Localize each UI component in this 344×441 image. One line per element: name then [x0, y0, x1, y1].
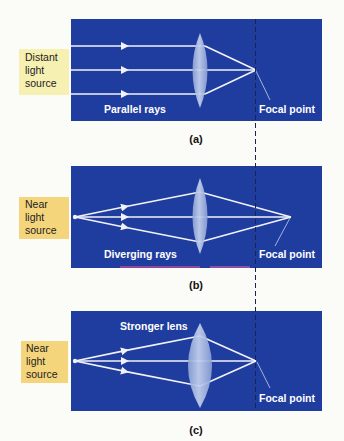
ray-label-b: Diverging rays: [104, 248, 177, 260]
focal-label-a: Focal point: [259, 103, 316, 115]
caption-c: (c): [189, 424, 203, 436]
focal-label-b: Focal point: [259, 248, 316, 260]
panel-a: Distant light source Parallel rays Focal…: [19, 19, 322, 145]
ray-label-a: Parallel rays: [104, 103, 166, 115]
bottom-edge-tint: [210, 266, 250, 268]
panel-c: Near light source Stronger lens Focal po…: [21, 311, 322, 436]
caption-a: (a): [189, 133, 203, 145]
near-source-dot-c: [73, 359, 77, 363]
panel-b: Near light source Diverging rays Focal p…: [19, 166, 322, 291]
near-source-dot-b: [73, 215, 77, 219]
lens-label-c: Stronger lens: [120, 320, 188, 332]
caption-b: (b): [189, 279, 203, 291]
bottom-edge-tint: [120, 266, 200, 268]
focal-label-c: Focal point: [259, 392, 316, 404]
lens-focus-diagram: Distant light source Parallel rays Focal…: [0, 0, 344, 441]
